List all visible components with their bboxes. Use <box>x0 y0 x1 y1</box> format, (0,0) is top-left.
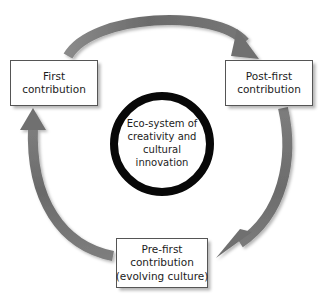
node-first-contribution-line-1: First <box>43 70 65 84</box>
center-label-line-1: Eco-system of <box>127 118 198 131</box>
node-pre-first-contribution-line-3: (evolving culture) <box>116 270 209 284</box>
center-ecosystem-ring: Eco-system of creativity and cultural in… <box>110 92 214 196</box>
node-pre-first-contribution-line-2: contribution <box>130 256 194 270</box>
center-label-line-4: innovation <box>136 157 189 170</box>
arrow-postfirst-to-prefirst <box>216 108 287 258</box>
node-pre-first-contribution[interactable]: Pre-first contribution (evolving culture… <box>116 238 208 288</box>
node-post-first-contribution[interactable]: Post-first contribution <box>225 60 313 106</box>
diagram-canvas: First contribution Post-first contributi… <box>0 0 323 298</box>
node-post-first-contribution-line-2: contribution <box>237 83 301 97</box>
node-first-contribution[interactable]: First contribution <box>10 60 98 106</box>
arrow-prefirst-to-first <box>20 108 113 256</box>
node-post-first-contribution-line-1: Post-first <box>246 70 292 84</box>
arrow-first-to-postfirst <box>68 20 259 59</box>
center-label-line-2: creativity and <box>128 131 197 144</box>
node-first-contribution-line-2: contribution <box>22 83 86 97</box>
node-pre-first-contribution-line-1: Pre-first <box>141 243 182 257</box>
center-label-line-3: cultural <box>143 144 181 157</box>
